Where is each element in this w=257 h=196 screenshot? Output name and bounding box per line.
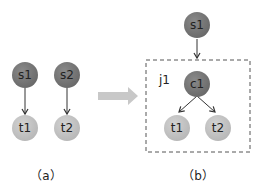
node-t1-label: t1 — [19, 121, 31, 135]
caption-a: （a） — [30, 169, 61, 183]
transform-arrow-icon — [98, 87, 138, 105]
node-t1-b-label: t1 — [171, 121, 183, 135]
node-s2-label: s2 — [60, 68, 74, 82]
node-t2-b-label: t2 — [212, 121, 224, 135]
edge-c1-t1 — [179, 96, 197, 112]
panel-a: s1 s2 t1 t2 （a） — [12, 62, 80, 183]
node-t2-label: t2 — [61, 121, 73, 135]
panel-b: s1 j1 c1 t1 t2 （b） — [146, 12, 250, 183]
caption-b: （b） — [182, 169, 214, 183]
node-s1-label: s1 — [18, 68, 32, 82]
edge-c1-t2 — [197, 96, 215, 112]
node-s1-b-label: s1 — [190, 18, 204, 32]
diagram-canvas: s1 s2 t1 t2 （a） s1 j1 c1 t1 t2 （b） — [0, 0, 257, 196]
node-c1-label: c1 — [190, 77, 204, 91]
group-j1-label: j1 — [158, 73, 170, 87]
